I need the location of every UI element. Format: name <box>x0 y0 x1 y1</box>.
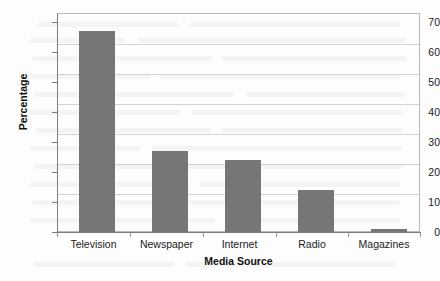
x-axis-title: Media Source <box>57 255 420 267</box>
y-tick-10 <box>52 202 57 203</box>
y-tick-50 <box>52 82 57 83</box>
y-tick-label-70: 70 <box>394 16 440 28</box>
x-tick-label-television: Television <box>57 238 130 250</box>
bar-radio <box>298 190 334 232</box>
x-tick-5 <box>420 233 421 237</box>
y-tick-label-0: 0 <box>394 226 440 238</box>
y-tick-label-40: 40 <box>394 106 440 118</box>
x-tick-2 <box>203 233 204 237</box>
x-tick-label-internet: Internet <box>203 238 276 250</box>
y-tick-label-30: 30 <box>394 136 440 148</box>
y-tick-label-50: 50 <box>394 76 440 88</box>
x-tick-1 <box>130 233 131 237</box>
y-tick-40 <box>52 112 57 113</box>
y-tick-label-20: 20 <box>394 166 440 178</box>
bar-internet <box>225 160 261 232</box>
bar-newspaper <box>152 151 188 232</box>
bar-television <box>79 31 115 232</box>
y-tick-label-10: 10 <box>394 196 440 208</box>
y-tick-30 <box>52 142 57 143</box>
x-tick-3 <box>276 233 277 237</box>
x-tick-label-magazines: Magazines <box>348 238 420 250</box>
y-axis-line <box>57 13 58 233</box>
x-tick-label-radio: Radio <box>276 238 348 250</box>
y-tick-60 <box>52 52 57 53</box>
y-axis-title: Percentage <box>17 57 29 147</box>
y-tick-20 <box>52 172 57 173</box>
x-tick-label-newspaper: Newspaper <box>130 238 203 250</box>
chart-page: 70 60 50 40 30 20 10 0 Percentage Televi… <box>0 0 440 281</box>
x-tick-4 <box>348 233 349 237</box>
y-tick-label-60: 60 <box>394 46 440 58</box>
x-axis-line <box>57 232 421 233</box>
x-tick-0 <box>57 233 58 237</box>
y-tick-70 <box>52 22 57 23</box>
